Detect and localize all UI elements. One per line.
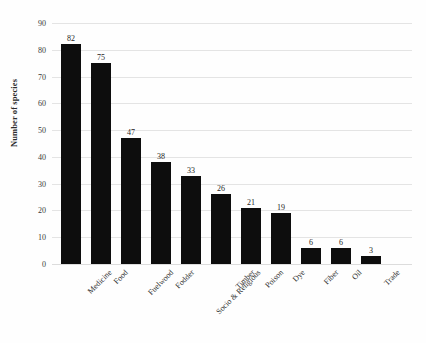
x-tick-label: Medicine [86,268,114,296]
bar-slot: 6 [296,23,326,264]
bar-slot: 75 [86,23,116,264]
x-tick-label: Oil [350,268,364,282]
bar[interactable] [211,194,231,264]
bar-slot: 3 [356,23,386,264]
y-tick-label-20: 20 [24,206,46,215]
bar-value-label: 3 [356,246,386,255]
y-tick-label-70: 70 [24,72,46,81]
x-tick-label: Fuelwood [146,268,175,297]
y-tick-label-60: 60 [24,99,46,108]
y-tick-label-90: 90 [24,19,46,28]
bar-value-label: 33 [176,166,206,175]
bar-value-label: 19 [266,203,296,212]
x-tick-label: Fiber [322,268,340,286]
bar[interactable] [301,248,321,264]
bar[interactable] [361,256,381,264]
y-tick-label-80: 80 [24,45,46,54]
bar-value-label: 38 [146,152,176,161]
x-tick-label: Poison [263,268,285,290]
bar-value-label: 75 [86,53,116,62]
y-tick-label-0: 0 [24,260,46,269]
x-tick-label: Food [112,268,130,286]
y-axis-tick-labels: 0102030405060708090 [22,23,46,264]
bar-slot: 21 [236,23,266,264]
y-tick-label-40: 40 [24,152,46,161]
bar[interactable] [151,162,171,264]
bar-value-label: 47 [116,128,146,137]
bar[interactable] [91,63,111,264]
x-tick-label: Fodder [174,268,196,290]
bar-slot: 6 [326,23,356,264]
bar[interactable] [241,208,261,264]
bar-value-label: 6 [326,238,356,247]
x-tick-label: Dye [291,268,307,284]
bar-slot: 33 [176,23,206,264]
bar[interactable] [271,213,291,264]
x-tick-label: Trade [382,268,401,287]
plot-area: 8275473833262119663 [52,23,412,264]
bar-slot: 47 [116,23,146,264]
bar-slot: 26 [206,23,236,264]
bar[interactable] [121,138,141,264]
bar-slot: 19 [266,23,296,264]
bar-value-label: 26 [206,184,236,193]
bar-chart-figure: Number of species 0102030405060708090 82… [0,0,426,343]
bar[interactable] [181,176,201,264]
bar[interactable] [331,248,351,264]
bar-slot: 38 [146,23,176,264]
bar-value-label: 6 [296,238,326,247]
y-tick-label-50: 50 [24,126,46,135]
bar-slot: 82 [56,23,86,264]
bar-value-label: 21 [236,198,266,207]
gridline-0 [52,264,412,265]
y-axis-title: Number of species [9,63,19,163]
bar-value-label: 82 [56,34,86,43]
y-tick-label-30: 30 [24,179,46,188]
y-tick-label-10: 10 [24,233,46,242]
bar[interactable] [61,44,81,264]
